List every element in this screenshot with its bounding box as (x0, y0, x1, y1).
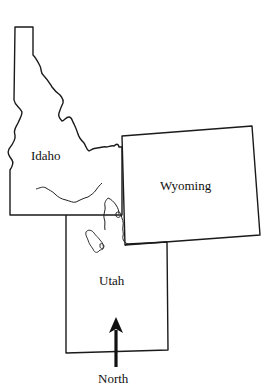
wyoming-label: Wyoming (160, 178, 212, 193)
idaho-label: Idaho (31, 148, 61, 163)
snake-river (36, 183, 102, 202)
idaho-outline (8, 27, 122, 215)
north-label: North (98, 371, 129, 386)
north-arrow-icon (109, 317, 123, 367)
great-salt-lake (86, 230, 104, 252)
map-canvas: Idaho Wyoming Utah North (0, 0, 267, 388)
bear-river (104, 198, 119, 230)
utah-label: Utah (99, 273, 125, 288)
